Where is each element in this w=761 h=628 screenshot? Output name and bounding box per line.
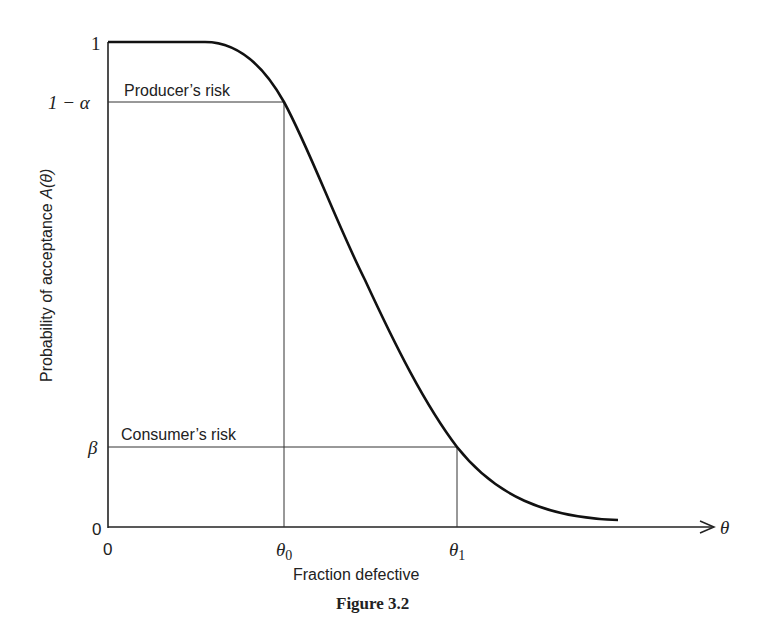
y-tick-beta: β xyxy=(87,437,98,458)
y-tick-0: 0 xyxy=(92,520,101,539)
figure-caption: Figure 3.2 xyxy=(336,594,409,613)
oc-curve-chart: 1 1 − α β 0 0 θ0 θ1 θ Producer’s risk Co… xyxy=(0,0,761,628)
consumers-risk-label: Consumer’s risk xyxy=(121,426,237,443)
x-tick-theta1: θ1 xyxy=(449,539,465,563)
x-axis-label: Fraction defective xyxy=(293,566,419,583)
x-axis-symbol-theta: θ xyxy=(720,517,729,538)
x-tick-theta0: θ0 xyxy=(276,539,292,563)
y-axis-label: Probability of acceptance A(θ) xyxy=(38,169,55,382)
y-tick-1-minus-alpha: 1 − α xyxy=(48,92,91,113)
x-tick-0: 0 xyxy=(103,540,112,559)
producers-risk-label: Producer’s risk xyxy=(124,82,231,99)
oc-curve xyxy=(108,42,618,520)
y-tick-1: 1 xyxy=(91,33,101,54)
